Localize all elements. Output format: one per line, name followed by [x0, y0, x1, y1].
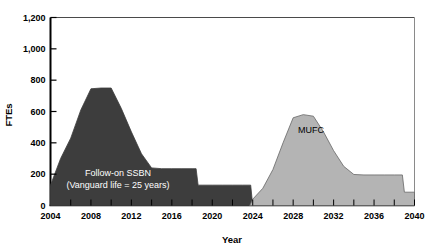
x-axis-title: Year — [222, 234, 242, 245]
y-tick-label: 200 — [30, 169, 45, 179]
y-tick-label: 400 — [30, 138, 45, 148]
x-tick-label: 2012 — [121, 211, 141, 221]
y-tick-label: 1,000 — [23, 44, 46, 54]
series-label-follow-on-ssbn-line1: Follow-on SSBN — [85, 168, 151, 178]
ftes-year-area-chart: 02004006008001,0001,200 2004200820122016… — [0, 0, 428, 251]
x-tick-label: 2036 — [364, 211, 384, 221]
x-tick-label: 2040 — [404, 211, 424, 221]
x-tick-label: 2016 — [162, 211, 182, 221]
y-tick-label: 800 — [30, 75, 45, 85]
x-tick-label: 2004 — [40, 211, 60, 221]
x-tick-label: 2032 — [324, 211, 344, 221]
y-tick-label: 1,200 — [23, 13, 46, 23]
y-axis-title: FTEs — [3, 103, 14, 126]
y-tick-label: 0 — [40, 201, 45, 211]
x-tick-label: 2020 — [202, 211, 222, 221]
series-label-mufc: MUFC — [298, 125, 324, 135]
series-label-follow-on-ssbn-line2: (Vanguard life = 25 years) — [66, 180, 169, 190]
x-tick-label: 2008 — [81, 211, 101, 221]
x-tick-label: 2024 — [243, 211, 263, 221]
chart-figure: 02004006008001,0001,200 2004200820122016… — [0, 0, 428, 251]
y-tick-label: 600 — [30, 107, 45, 117]
x-tick-label: 2028 — [283, 211, 303, 221]
